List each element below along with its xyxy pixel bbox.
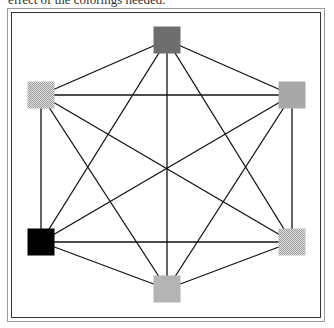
edge-bottom-top-left xyxy=(41,95,167,289)
node-top xyxy=(154,27,181,54)
complete-graph-diagram xyxy=(0,0,334,328)
edge-top-bottom-right xyxy=(167,40,292,242)
edge-top-top-right xyxy=(167,40,292,95)
node-bottom-right xyxy=(279,229,306,256)
node-top-right xyxy=(279,82,306,109)
edges xyxy=(41,40,292,289)
edge-bottom-right-bottom xyxy=(167,242,292,289)
node-top-left xyxy=(28,82,55,109)
edge-top-bottom-left xyxy=(41,40,167,242)
edge-top-top-left xyxy=(41,40,167,95)
edge-bottom-bottom-left xyxy=(41,242,167,289)
edge-top-right-bottom xyxy=(167,95,292,289)
node-bottom xyxy=(154,276,181,303)
node-bottom-left xyxy=(28,229,55,256)
